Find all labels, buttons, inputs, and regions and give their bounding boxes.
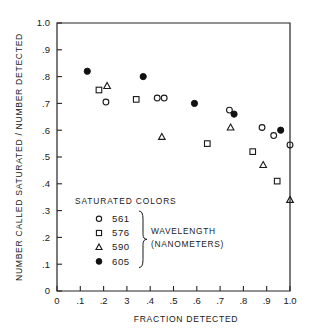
data-point-590 bbox=[260, 162, 267, 168]
data-point-561 bbox=[161, 95, 167, 101]
y-tick-label: .8 bbox=[42, 71, 50, 82]
legend-label-605: 605 bbox=[112, 256, 130, 267]
series-590 bbox=[104, 82, 294, 202]
data-point-605 bbox=[278, 127, 284, 133]
data-point-576 bbox=[133, 97, 139, 103]
x-tick-label: 1.0 bbox=[283, 295, 296, 306]
data-points bbox=[84, 68, 293, 202]
scatter-chart-figure: 0.1.23.4.5.6.7.8.91.0 0.1.2.3.4.5.6.7.8.… bbox=[0, 0, 317, 335]
x-tick-label: 3 bbox=[124, 295, 129, 306]
data-point-576 bbox=[204, 141, 210, 147]
legend-heading: SATURATED COLORS bbox=[75, 196, 177, 206]
y-tick-label: .7 bbox=[42, 98, 50, 109]
legend-note-line-2: (NANOMETERS) bbox=[151, 239, 224, 249]
data-point-590 bbox=[227, 124, 234, 130]
y-tick-label: .9 bbox=[42, 44, 50, 55]
y-tick-label: .4 bbox=[42, 178, 50, 189]
x-tick-label: .5 bbox=[170, 295, 178, 306]
legend-marker-561 bbox=[96, 216, 101, 221]
data-point-561 bbox=[103, 99, 109, 105]
data-point-605 bbox=[191, 100, 197, 106]
y-tick-label: 0 bbox=[45, 285, 50, 296]
x-tick-label: .6 bbox=[193, 295, 201, 306]
series-576 bbox=[96, 87, 280, 184]
plot-frame bbox=[57, 23, 290, 291]
x-tick-label: .1 bbox=[76, 295, 84, 306]
legend-marker-605 bbox=[96, 259, 102, 265]
legend-label-576: 576 bbox=[112, 227, 130, 238]
data-point-605 bbox=[84, 68, 90, 74]
data-point-561 bbox=[259, 125, 265, 131]
x-tick-label: .8 bbox=[239, 295, 247, 306]
y-axis-title: NUMBER CALLED SATURATED / NUMBER DETECTE… bbox=[14, 33, 24, 281]
axes bbox=[57, 23, 290, 291]
data-point-590 bbox=[104, 82, 111, 88]
y-tick-label: .6 bbox=[42, 125, 50, 136]
legend-marker-576 bbox=[96, 230, 101, 235]
axis-ticks bbox=[57, 23, 290, 291]
data-point-590 bbox=[159, 133, 166, 139]
legend: SATURATED COLORS561576590605WAVELENGTH(N… bbox=[75, 196, 224, 268]
legend-note-line-1: WAVELENGTH bbox=[151, 226, 216, 236]
y-tick-label: .5 bbox=[42, 151, 50, 162]
legend-label-590: 590 bbox=[112, 241, 130, 252]
x-tick-label: .9 bbox=[263, 295, 271, 306]
series-605 bbox=[84, 68, 284, 133]
data-point-561 bbox=[154, 95, 160, 101]
data-point-576 bbox=[274, 178, 280, 184]
x-tick-label: .2 bbox=[100, 295, 108, 306]
data-point-605 bbox=[231, 111, 237, 117]
y-tick-label: .3 bbox=[42, 205, 50, 216]
legend-label-561: 561 bbox=[112, 213, 130, 224]
y-tick-label: .2 bbox=[42, 232, 50, 243]
y-tick-label: .1 bbox=[42, 259, 50, 270]
y-axis-tick-labels: 0.1.2.3.4.5.6.7.8.91.0 bbox=[37, 17, 50, 296]
x-axis-title: FRACTION DETECTED bbox=[134, 314, 239, 324]
data-point-605 bbox=[140, 74, 146, 80]
y-tick-label: 1.0 bbox=[37, 17, 50, 28]
data-point-576 bbox=[96, 87, 102, 93]
x-tick-label: .7 bbox=[216, 295, 224, 306]
x-tick-label: .4 bbox=[146, 295, 154, 306]
data-point-576 bbox=[250, 149, 256, 155]
x-axis-tick-labels: 0.1.23.4.5.6.7.8.91.0 bbox=[54, 295, 296, 306]
plot-canvas: 0.1.23.4.5.6.7.8.91.0 0.1.2.3.4.5.6.7.8.… bbox=[0, 0, 317, 335]
legend-brace bbox=[139, 211, 147, 268]
data-point-561 bbox=[271, 133, 277, 139]
legend-marker-590 bbox=[96, 244, 102, 250]
x-tick-label: 0 bbox=[54, 295, 59, 306]
